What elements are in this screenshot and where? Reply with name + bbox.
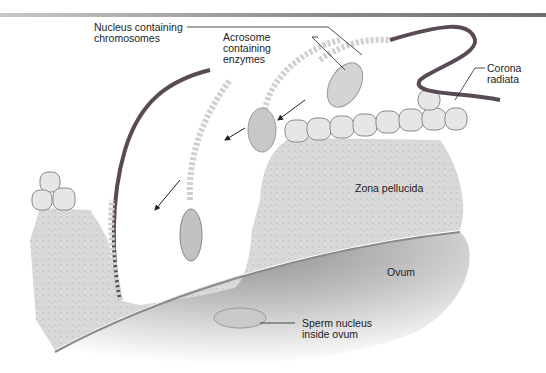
label-sperm-nucleus: Sperm nucleus inside ovum xyxy=(302,318,372,340)
label-nucleus: Nucleus containing chromosomes xyxy=(94,22,183,44)
arrow-2 xyxy=(225,128,245,140)
arrow-3 xyxy=(155,180,180,210)
sperm-head-approaching xyxy=(320,57,370,114)
sperm-tail-mid xyxy=(190,80,230,200)
sperm-head-penetrating xyxy=(180,209,202,261)
sperm-tail-left xyxy=(114,70,210,300)
label-ovum: Ovum xyxy=(387,267,415,278)
sperm-tail-right xyxy=(390,27,500,100)
label-zona-pellucida: Zona pellucida xyxy=(355,183,423,194)
sperm-head-acrosome-reacting xyxy=(248,108,276,152)
label-corona-radiata: Corona radiata xyxy=(487,63,521,85)
label-acrosome: Acrosome containing enzymes xyxy=(223,32,271,65)
fertilization-illustration xyxy=(0,0,546,373)
sperm-nucleus-inside-ovum xyxy=(214,308,266,328)
arrow-1 xyxy=(278,100,305,120)
